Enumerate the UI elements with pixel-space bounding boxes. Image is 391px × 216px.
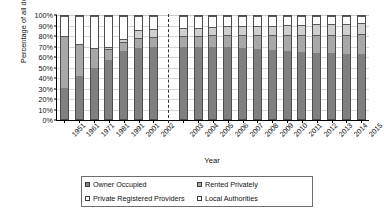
- bar-slot-2009: [265, 15, 280, 120]
- bar-2002[interactable]: [149, 15, 158, 120]
- y-tick-label: 20%: [39, 95, 53, 104]
- bar-segment-3: [284, 16, 291, 25]
- bar-slot-2007: [235, 15, 250, 120]
- bar-2014[interactable]: [342, 15, 351, 120]
- legend-swatch-icon-owner-occupied: [85, 182, 90, 187]
- bar-segment-2: [254, 26, 261, 34]
- y-tick-label: 10%: [39, 105, 53, 114]
- bar-segment-0: [358, 54, 365, 119]
- bar-segment-3: [209, 16, 216, 27]
- bar-segment-2: [284, 25, 291, 34]
- bar-segment-3: [180, 16, 187, 28]
- bar-2011[interactable]: [297, 15, 306, 120]
- bar-segment-0: [91, 68, 98, 120]
- bar-2012[interactable]: [312, 15, 321, 120]
- bar-segment-3: [328, 16, 335, 24]
- bar-segment-2: [195, 28, 202, 35]
- bar-segment-3: [239, 16, 246, 26]
- bar-slot-2015: [354, 15, 369, 120]
- bar-segment-1: [343, 35, 350, 55]
- legend-item-private-registered-providers: Private Registered Providers: [85, 194, 197, 203]
- y-tick-label: 70%: [39, 42, 53, 51]
- legend-swatch-icon-local-authorities: [197, 196, 202, 201]
- plot-area: 0%10%20%30%40%50%60%70%80%90%100%: [56, 15, 369, 121]
- bar-1961[interactable]: [75, 15, 84, 120]
- bar-segment-1: [209, 35, 216, 47]
- legend-label-owner-occupied: Owner Occupied: [93, 180, 147, 189]
- bar-segment-1: [269, 35, 276, 50]
- bar-2015[interactable]: [357, 15, 366, 120]
- bar-2004[interactable]: [194, 15, 203, 120]
- bar-slot-2003: [176, 15, 191, 120]
- bar-2005[interactable]: [208, 15, 217, 120]
- y-tick-label: 30%: [39, 84, 53, 93]
- legend-item-owner-occupied: Owner Occupied: [85, 180, 197, 189]
- bar-segment-0: [135, 48, 142, 119]
- bar-segment-0: [150, 47, 157, 119]
- chart-legend: Owner Occupied Rented Privately Private …: [81, 176, 313, 207]
- bar-segment-0: [328, 53, 335, 119]
- bar-segment-2: [298, 25, 305, 34]
- x-tick-label-2008: 2008: [262, 121, 280, 139]
- x-tick-label-2005: 2005: [218, 121, 236, 139]
- bar-segment-0: [254, 49, 261, 119]
- bar-1971[interactable]: [90, 15, 99, 120]
- bar-2013[interactable]: [327, 15, 336, 120]
- bar-segment-1: [76, 44, 83, 76]
- y-tick-label: 80%: [39, 32, 53, 41]
- y-tick-label: 40%: [39, 74, 53, 83]
- bar-segment-1: [135, 38, 142, 48]
- bar-segment-3: [91, 16, 98, 48]
- x-tick-label-2011: 2011: [307, 121, 324, 138]
- bar-slot-1971: [87, 15, 102, 120]
- legend-label-private-registered-providers: Private Registered Providers: [93, 194, 184, 203]
- bar-segment-3: [61, 16, 68, 36]
- bar-segment-3: [358, 16, 365, 23]
- bar-1981[interactable]: [104, 15, 113, 120]
- bar-2003[interactable]: [179, 15, 188, 120]
- x-tick-label-2012: 2012: [322, 121, 340, 139]
- bar-segment-3: [195, 16, 202, 28]
- x-tick-label-2006: 2006: [233, 121, 251, 139]
- bar-2010[interactable]: [283, 15, 292, 120]
- bars-container: [57, 15, 369, 120]
- bar-segment-1: [254, 35, 261, 49]
- bar-segment-1: [239, 35, 246, 48]
- bar-segment-3: [135, 16, 142, 30]
- bar-slot-1951: [57, 15, 72, 120]
- legend-item-local-authorities: Local Authorities: [197, 194, 309, 203]
- bar-segment-3: [298, 16, 305, 25]
- bar-2007[interactable]: [238, 15, 247, 120]
- bar-segment-2: [313, 24, 320, 34]
- x-axis-title: Year: [56, 156, 368, 165]
- bar-segment-2: [269, 26, 276, 34]
- bar-slot-1961: [72, 15, 87, 120]
- bar-slot-2011: [295, 15, 310, 120]
- y-tick-label: 50%: [39, 63, 53, 72]
- bar-segment-3: [254, 16, 261, 26]
- bar-slot-2001: [131, 15, 146, 120]
- bar-slot-2013: [324, 15, 339, 120]
- bar-2008[interactable]: [253, 15, 262, 120]
- x-tick-label-2001: 2001: [144, 121, 162, 139]
- x-axis-tick-labels: 1951196119711981199120012002200320042005…: [56, 121, 368, 155]
- bar-1991[interactable]: [119, 15, 128, 120]
- bar-segment-2: [135, 30, 142, 37]
- bar-segment-3: [150, 16, 157, 29]
- bar-segment-0: [239, 48, 246, 119]
- bar-slot-2008: [250, 15, 265, 120]
- bar-segment-1: [328, 35, 335, 54]
- legend-swatch-icon-private-registered-providers: [85, 196, 90, 201]
- bar-segment-0: [224, 47, 231, 119]
- bar-slot-2010: [280, 15, 295, 120]
- bar-2006[interactable]: [223, 15, 232, 120]
- bar-2009[interactable]: [268, 15, 277, 120]
- bar-1951[interactable]: [60, 15, 69, 120]
- bar-segment-0: [105, 60, 112, 119]
- x-tick-label-1971: 1971: [99, 121, 117, 139]
- x-tick-label-2007: 2007: [248, 121, 266, 139]
- bar-segment-0: [269, 50, 276, 119]
- bar-2001[interactable]: [134, 15, 143, 120]
- bar-segment-0: [61, 88, 68, 119]
- x-tick-label-2002: 2002: [158, 121, 176, 139]
